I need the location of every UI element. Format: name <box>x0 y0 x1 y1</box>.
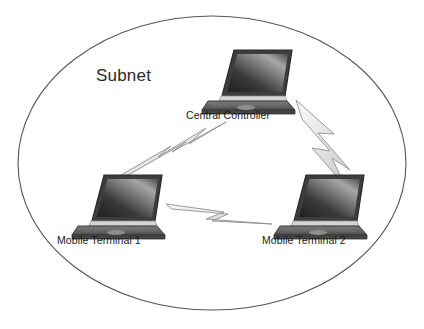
node-central-controller[interactable] <box>202 50 295 114</box>
laptop-icon <box>72 175 165 239</box>
laptop-icon <box>202 50 295 114</box>
node-label-central-controller: Central Controller <box>186 109 270 121</box>
node-label-mobile-terminal-2: Mobile Terminal 2 <box>262 234 346 246</box>
laptop-icon <box>274 175 367 239</box>
subnet-label: Subnet <box>96 66 151 86</box>
link-cc-mt1 <box>109 122 226 182</box>
node-mobile-terminal-2[interactable] <box>274 175 367 239</box>
diagram-canvas <box>0 0 424 329</box>
link-mt1-mt2 <box>166 204 272 224</box>
node-label-mobile-terminal-1: Mobile Terminal 1 <box>57 234 141 246</box>
subnet-boundary-ellipse <box>18 16 406 310</box>
network-diagram: Subnet Central Controller Mobile Termina… <box>0 0 424 329</box>
link-cc-mt2 <box>296 100 350 186</box>
node-mobile-terminal-1[interactable] <box>72 175 165 239</box>
